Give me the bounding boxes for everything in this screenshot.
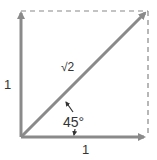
left-side-label: 1: [4, 77, 11, 92]
bottom-side-label: 1: [82, 142, 89, 157]
angle-label: 45°: [63, 114, 84, 130]
angle-pointer-upper: [66, 102, 73, 112]
diagonal-label: √2: [61, 60, 75, 74]
vector-diagram: 1 1 √2 45°: [0, 0, 157, 160]
